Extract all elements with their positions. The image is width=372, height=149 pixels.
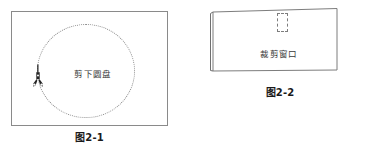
figure-2-1-caption: 图2-1	[11, 129, 168, 144]
figure-2-2-caption: 图2-2	[210, 84, 350, 99]
figure-2-2: 裁剪窗口 图2-2	[186, 0, 372, 149]
paper-sheet-rectangle: 剪下圆盘	[11, 11, 168, 126]
crop-window-label: 裁剪窗口	[224, 49, 334, 60]
cut-disc-label: 剪下圆盘	[58, 69, 128, 80]
scissors-icon	[31, 64, 45, 88]
figure-2-1: 剪下圆盘 图2-1	[0, 0, 186, 149]
dashed-cutout-rectangle	[277, 13, 288, 32]
figure-page: 剪下圆盘 图2-1	[0, 0, 372, 149]
